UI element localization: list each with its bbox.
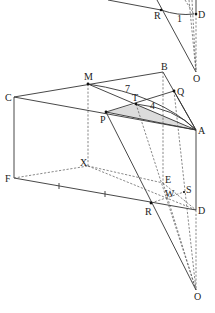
label-T: T <box>132 92 138 103</box>
point-P <box>105 111 108 114</box>
label-X: X <box>80 157 88 168</box>
label-Q: Q <box>177 86 185 97</box>
label-B: B <box>161 61 168 72</box>
point-D-top <box>195 13 198 16</box>
label-length-4: 4 <box>150 100 155 111</box>
line-to-R-top <box>108 0 161 10</box>
label-length-1: 1 <box>177 13 182 24</box>
label-P: P <box>100 114 106 125</box>
label-A: A <box>198 125 206 136</box>
label-length-7: 7 <box>125 83 130 94</box>
hidden-X-D <box>88 166 196 210</box>
hidden-E-O <box>163 183 196 290</box>
label-D: D <box>198 205 205 216</box>
geometry-diagram: R D O 1 <box>0 0 215 313</box>
hidden-F-X <box>14 166 88 178</box>
point-R <box>150 202 153 205</box>
point-T <box>135 103 137 105</box>
point-M <box>87 83 90 86</box>
label-R-top: R <box>154 10 161 21</box>
label-C: C <box>5 92 12 103</box>
label-R: R <box>145 206 152 217</box>
label-O: O <box>194 291 201 302</box>
hidden-X-E <box>88 166 163 183</box>
label-S: S <box>186 184 192 195</box>
label-W: W <box>165 188 175 199</box>
label-F: F <box>5 173 11 184</box>
point-S <box>183 191 185 193</box>
line-P-O <box>106 112 196 290</box>
label-E: E <box>165 174 171 185</box>
main-figure: C M B Q T P A X E F W S R D O 7 4 <box>5 61 206 302</box>
label-M: M <box>84 71 93 82</box>
label-O-top: O <box>193 73 200 84</box>
point-Q <box>173 90 176 93</box>
label-D-top: D <box>198 9 205 20</box>
top-fragment: R D O 1 <box>108 0 205 84</box>
